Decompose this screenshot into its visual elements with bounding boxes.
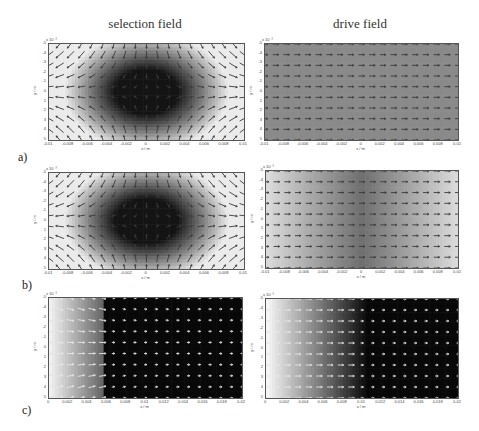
y-axis-exponent: x 10⁻³: [262, 37, 273, 42]
y-tick-label: 0: [255, 345, 263, 350]
plot-c-drive-field: [265, 298, 459, 399]
y-tick-label: 4: [38, 126, 46, 131]
plot-canvas: [266, 171, 458, 268]
y-tick-label: -3: [254, 59, 262, 64]
y-axis-exponent: x 10⁻³: [263, 164, 274, 169]
y-tick-label: -3: [38, 314, 46, 319]
plot-b-drive-field: [265, 170, 459, 269]
y-tick-label: -5: [38, 294, 46, 299]
y-tick-label: 0: [38, 344, 46, 349]
y-axis-exponent: x 10⁻³: [46, 291, 57, 296]
y-tick-label: -2: [38, 324, 46, 329]
y-tick-label: -1: [38, 78, 46, 83]
y-tick-label: 3: [255, 374, 263, 379]
y-tick-label: 2: [38, 107, 46, 112]
y-tick-label: 4: [38, 255, 46, 260]
panel-label-c: c): [22, 403, 31, 418]
plot-canvas: [265, 44, 458, 140]
panel-label-b: b): [22, 278, 32, 293]
y-tick-label: 3: [255, 245, 263, 250]
y-tick-label: 3: [38, 246, 46, 251]
y-tick-label: -4: [38, 304, 46, 309]
y-tick-label: 1: [38, 98, 46, 103]
y-tick-label: -4: [38, 50, 46, 55]
y-tick-label: 0: [254, 88, 262, 93]
x-tick-label: 0.02: [445, 399, 469, 404]
y-tick-label: -5: [38, 169, 46, 174]
x-axis-label: x / m: [351, 404, 371, 409]
y-tick-label: 1: [38, 354, 46, 359]
y-axis-label: y / m: [32, 215, 37, 224]
x-tick-label: 0.01: [445, 269, 469, 274]
y-tick-label: -3: [255, 186, 263, 191]
y-tick-label: -1: [255, 206, 263, 211]
plot-canvas: [49, 173, 244, 269]
y-axis-exponent: x 10⁻³: [46, 166, 57, 171]
y-tick-label: -1: [254, 78, 262, 83]
left-column-title: selection field: [45, 16, 245, 32]
y-tick-label: 2: [254, 107, 262, 112]
y-tick-label: -2: [38, 198, 46, 203]
x-axis-label: x / m: [135, 404, 155, 409]
y-tick-label: 4: [255, 254, 263, 259]
y-tick-label: -5: [38, 40, 46, 45]
y-tick-label: -5: [255, 167, 263, 172]
y-tick-label: -4: [255, 305, 263, 310]
x-tick-label: 0.01: [445, 141, 469, 146]
right-column-title: drive field: [260, 16, 460, 32]
y-axis-label: y / m: [249, 343, 254, 352]
y-axis-exponent: x 10⁻³: [46, 37, 57, 42]
x-axis-label: x / m: [351, 274, 371, 279]
y-tick-label: -3: [255, 315, 263, 320]
y-tick-label: -2: [255, 325, 263, 330]
y-tick-label: 4: [38, 384, 46, 389]
panel-label-a: a): [18, 150, 27, 165]
y-tick-label: 1: [255, 354, 263, 359]
plot-a-selection-field: [48, 43, 245, 141]
y-tick-label: 4: [255, 384, 263, 389]
plot-canvas: [266, 299, 458, 398]
y-tick-label: -5: [255, 295, 263, 300]
y-tick-label: 0: [38, 88, 46, 93]
y-tick-label: 3: [38, 117, 46, 122]
y-tick-label: 0: [38, 217, 46, 222]
y-axis-exponent: x 10⁻³: [263, 292, 274, 297]
y-tick-label: -1: [255, 335, 263, 340]
y-tick-label: 3: [38, 374, 46, 379]
plot-a-drive-field: [264, 43, 459, 141]
x-tick-label: 0.02: [229, 399, 253, 404]
y-tick-label: 4: [254, 126, 262, 131]
y-axis-label: y / m: [32, 342, 37, 351]
y-tick-label: -1: [38, 334, 46, 339]
y-tick-label: -4: [255, 177, 263, 182]
y-tick-label: 2: [255, 364, 263, 369]
y-tick-label: -4: [38, 179, 46, 184]
y-tick-label: 1: [255, 225, 263, 230]
y-tick-label: -5: [254, 40, 262, 45]
y-axis-label: y / m: [32, 86, 37, 95]
x-axis-label: x / m: [351, 146, 371, 151]
y-tick-label: -2: [254, 69, 262, 74]
plot-canvas: [49, 44, 244, 140]
plot-c-selection-field: [48, 297, 243, 399]
x-axis-label: x / m: [136, 275, 156, 280]
x-tick-label: 0.01: [231, 270, 255, 275]
y-tick-label: -3: [38, 188, 46, 193]
y-tick-label: 0: [255, 216, 263, 221]
y-axis-label: y / m: [248, 86, 253, 95]
x-axis-label: x / m: [136, 146, 156, 151]
y-tick-label: -3: [38, 59, 46, 64]
y-tick-label: -1: [38, 207, 46, 212]
plot-b-selection-field: [48, 172, 245, 270]
y-tick-label: -2: [38, 69, 46, 74]
y-tick-label: 3: [254, 117, 262, 122]
y-tick-label: 1: [38, 227, 46, 232]
y-tick-label: 2: [38, 236, 46, 241]
y-tick-label: 2: [38, 364, 46, 369]
y-tick-label: 2: [255, 235, 263, 240]
y-tick-label: -4: [254, 50, 262, 55]
plot-canvas: [49, 298, 242, 398]
y-tick-label: 1: [254, 98, 262, 103]
y-axis-label: y / m: [249, 214, 254, 223]
y-tick-label: -2: [255, 196, 263, 201]
